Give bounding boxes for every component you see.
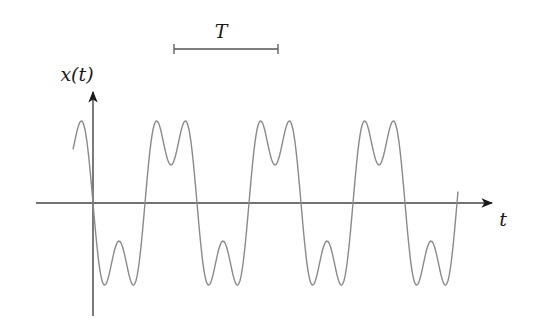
- x-axis-label: t: [499, 208, 507, 230]
- signal-diagram: T x(t) t: [0, 0, 538, 327]
- period-label: T: [215, 20, 229, 42]
- period-indicator: T: [174, 20, 278, 54]
- y-axis-label: x(t): [60, 63, 93, 85]
